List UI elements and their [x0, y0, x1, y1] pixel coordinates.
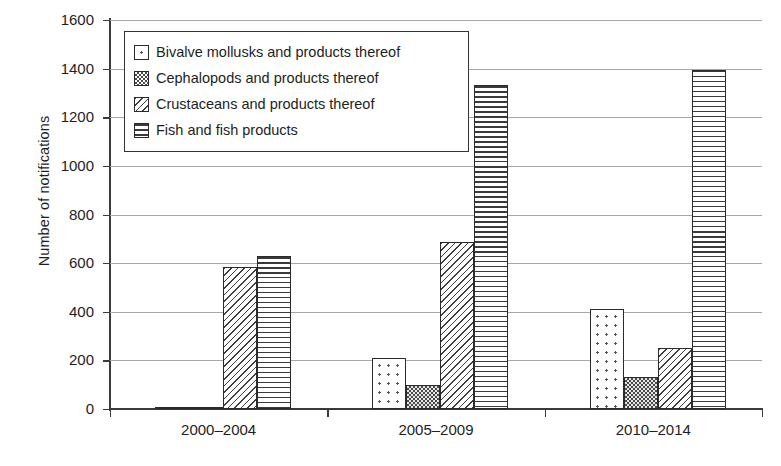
y-axis-tick — [103, 69, 110, 70]
y-axis-tick — [103, 263, 110, 264]
chart-legend: Bivalve mollusks and products thereofCep… — [124, 31, 469, 152]
legend-swatch-diagonal-icon — [134, 97, 149, 112]
bar-1-3 — [223, 267, 257, 409]
y-axis-tick-label: 1400 — [0, 60, 94, 77]
y-axis-tick — [103, 360, 110, 361]
y-axis-tick-label: 1200 — [0, 108, 94, 125]
bar-1-2 — [189, 407, 223, 409]
y-axis-tick-label: 400 — [0, 303, 94, 320]
y-axis-tick — [103, 117, 110, 118]
x-axis-category-label: 2010–2014 — [545, 421, 762, 438]
bar-2-4 — [474, 85, 508, 409]
gridline — [110, 263, 762, 264]
legend-item: Cephalopods and products thereof — [134, 65, 458, 91]
y-axis-tick-label: 600 — [0, 254, 94, 271]
bar-1-4 — [257, 256, 291, 409]
x-axis-tick — [327, 409, 328, 417]
gridline — [110, 20, 762, 21]
legend-item: Fish and fish products — [134, 117, 458, 143]
bar-3-4 — [692, 70, 726, 409]
legend-item-label: Fish and fish products — [156, 122, 298, 138]
bar-1-1 — [155, 407, 189, 409]
bar-3-3 — [658, 348, 692, 409]
y-axis-tick — [103, 409, 110, 410]
legend-item-label: Cephalopods and products thereof — [156, 70, 379, 86]
legend-swatch-dots-icon — [134, 45, 149, 60]
legend-item-label: Bivalve mollusks and products thereof — [156, 44, 400, 60]
y-axis-tick — [103, 312, 110, 313]
y-axis-tick-label: 200 — [0, 351, 94, 368]
gridline — [110, 215, 762, 216]
legend-item: Crustaceans and products thereof — [134, 91, 458, 117]
y-axis-tick — [103, 20, 110, 21]
y-axis-tick — [103, 215, 110, 216]
bar-chart-figure: Number of notifications 0200400600800100… — [0, 0, 781, 466]
bar-2-2 — [406, 385, 440, 409]
y-axis-title: Number of notifications — [36, 51, 52, 331]
legend-swatch-checker-icon — [134, 71, 149, 86]
bar-2-1 — [372, 358, 406, 409]
gridline — [110, 312, 762, 313]
y-axis-tick-label: 1000 — [0, 157, 94, 174]
x-axis-tick — [110, 409, 111, 417]
y-axis-tick — [103, 166, 110, 167]
legend-item-label: Crustaceans and products thereof — [156, 96, 374, 112]
gridline — [110, 166, 762, 167]
y-axis-tick-label: 0 — [0, 400, 94, 417]
x-axis-tick — [545, 409, 546, 417]
legend-swatch-horizontal-icon — [134, 123, 149, 138]
legend-item: Bivalve mollusks and products thereof — [134, 39, 458, 65]
bar-3-2 — [624, 377, 658, 409]
x-axis-tick — [762, 409, 763, 417]
x-axis-category-label: 2005–2009 — [327, 421, 544, 438]
y-axis-tick-label: 800 — [0, 206, 94, 223]
x-axis-category-label: 2000–2004 — [110, 421, 327, 438]
y-axis-tick-label: 1600 — [0, 11, 94, 28]
bar-3-1 — [590, 309, 624, 409]
bar-2-3 — [440, 242, 474, 409]
